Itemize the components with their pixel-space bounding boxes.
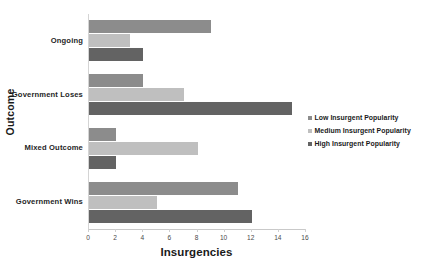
bar[interactable] <box>89 20 211 33</box>
bar[interactable] <box>89 88 184 101</box>
x-tick-mark <box>278 229 279 232</box>
x-tick-label: 0 <box>78 234 98 241</box>
bar-group <box>89 182 305 224</box>
bar-chart: Outcome 0246810121416 OngoingGovernment … <box>0 0 421 268</box>
bar-row <box>89 142 305 155</box>
x-tick-label: 6 <box>159 234 179 241</box>
x-tick-mark <box>251 229 252 232</box>
bar-group <box>89 20 305 62</box>
bar[interactable] <box>89 128 116 141</box>
legend-item[interactable]: Low Insurgent Popularity <box>308 112 420 123</box>
bar-row <box>89 210 305 223</box>
bar[interactable] <box>89 196 157 209</box>
bar-row <box>89 102 305 115</box>
bar-group <box>89 74 305 116</box>
bar[interactable] <box>89 210 252 223</box>
bar-row <box>89 88 305 101</box>
category-label: Government Wins <box>0 197 83 206</box>
chart-legend: Low Insurgent PopularityMedium Insurgent… <box>308 112 420 151</box>
legend-item[interactable]: Medium Insurgent Popularity <box>308 125 420 136</box>
bar-row <box>89 156 305 169</box>
bar-row <box>89 182 305 195</box>
x-axis-title: Insurgencies <box>88 246 305 258</box>
x-tick-mark <box>197 229 198 232</box>
legend-label: Low Insurgent Popularity <box>315 114 399 121</box>
category-label: Mixed Outcome <box>0 143 83 152</box>
x-tick-mark <box>169 229 170 232</box>
x-tick-label: 4 <box>132 234 152 241</box>
plot-area: 0246810121416 <box>88 14 305 229</box>
legend-label: Medium Insurgent Popularity <box>315 127 411 134</box>
legend-label: High Insurgent Popularity <box>315 140 400 147</box>
x-tick-label: 14 <box>268 234 288 241</box>
x-tick-label: 8 <box>187 234 207 241</box>
y-axis-title: Outcome <box>4 72 16 152</box>
bar-row <box>89 74 305 87</box>
x-tick-mark <box>224 229 225 232</box>
x-tick-mark <box>305 229 306 232</box>
bar[interactable] <box>89 74 143 87</box>
x-tick-mark <box>115 229 116 232</box>
legend-swatch-icon <box>308 129 312 133</box>
bar-row <box>89 20 305 33</box>
category-label: Government Loses <box>0 90 83 99</box>
bar-row <box>89 34 305 47</box>
bar[interactable] <box>89 182 238 195</box>
x-tick-mark <box>142 229 143 232</box>
bar[interactable] <box>89 34 130 47</box>
x-tick-label: 2 <box>105 234 125 241</box>
legend-swatch-icon <box>308 142 312 146</box>
x-tick-mark <box>88 229 89 232</box>
bar-row <box>89 48 305 61</box>
bar[interactable] <box>89 102 292 115</box>
bar[interactable] <box>89 156 116 169</box>
legend-swatch-icon <box>308 116 312 120</box>
bar-row <box>89 128 305 141</box>
x-tick-label: 16 <box>295 234 315 241</box>
x-tick-label: 12 <box>241 234 261 241</box>
bar[interactable] <box>89 48 143 61</box>
category-label: Ongoing <box>0 36 83 45</box>
bar[interactable] <box>89 142 198 155</box>
x-tick-label: 10 <box>214 234 234 241</box>
bar-group <box>89 128 305 170</box>
legend-item[interactable]: High Insurgent Popularity <box>308 138 420 149</box>
bar-row <box>89 196 305 209</box>
